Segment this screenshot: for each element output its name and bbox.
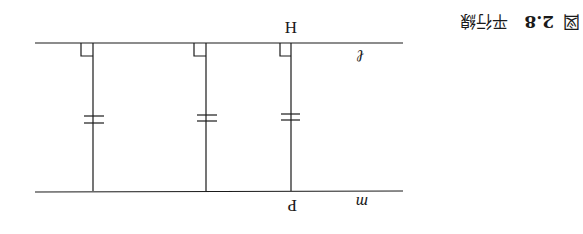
point-label-p: P <box>288 196 297 215</box>
line-m <box>35 191 403 192</box>
figure-caption: 図 2.8 平行線 <box>460 12 580 32</box>
line-label-m: m <box>356 193 368 212</box>
line-label-l: ℓ <box>357 46 364 65</box>
right-angle-marker-2 <box>194 43 206 56</box>
point-label-h: H <box>285 18 297 37</box>
right-angle-marker-3 <box>81 43 93 56</box>
caption-title: 平行線 <box>460 12 508 31</box>
caption-prefix: 図 <box>563 12 580 32</box>
right-angle-marker-h <box>280 43 291 56</box>
parallel-lines-figure: 図 2.8 平行線 <box>0 0 583 234</box>
equal-length-marks <box>84 114 300 123</box>
caption-number: 2.8 <box>524 12 554 32</box>
